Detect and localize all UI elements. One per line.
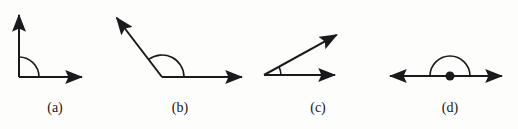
c-ray-upper-right xyxy=(264,35,337,75)
angle-panel-a xyxy=(19,15,82,77)
panel-label-b: (b) xyxy=(172,100,188,116)
a-angle-arc xyxy=(19,57,39,77)
panels-group xyxy=(19,15,502,81)
angle-diagrams-svg xyxy=(0,0,518,129)
b-ray-upper-left xyxy=(117,18,162,77)
panel-label-c: (c) xyxy=(310,100,326,116)
angle-panel-c xyxy=(264,35,337,75)
c-angle-arc xyxy=(279,67,281,75)
angle-panel-d xyxy=(390,56,502,81)
angle-panel-b xyxy=(117,18,242,77)
panel-label-a: (a) xyxy=(47,100,63,116)
d-vertex-dot xyxy=(446,72,455,81)
angle-figure: (a) (b) (c) (d) xyxy=(0,0,518,129)
panel-label-d: (d) xyxy=(442,100,458,116)
